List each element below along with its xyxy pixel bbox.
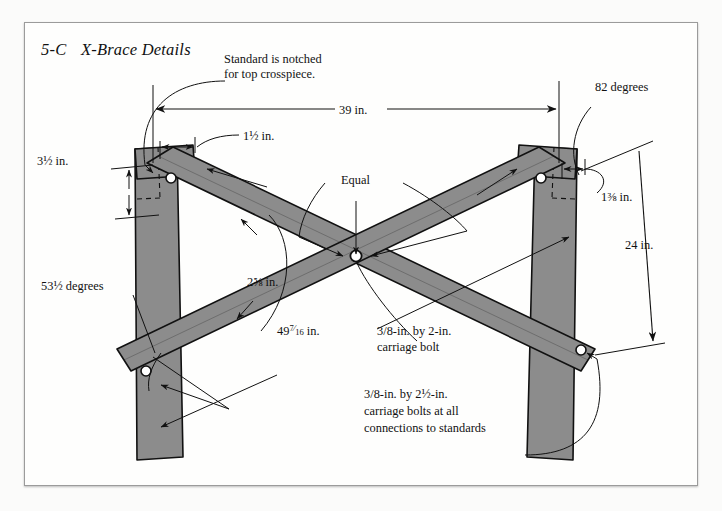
center-bolt-note-line1: 3/8-in. by 2-in. <box>377 324 451 338</box>
bolt-hole-top-right <box>536 173 546 183</box>
figure-frame: 5-C X-Brace Details Standard is notched … <box>24 22 698 486</box>
center-bolt-note-line2: carriage bolt <box>377 340 440 354</box>
dim-span-label: 39 in. <box>339 103 367 117</box>
dim-notch-width-label: 1½ in. <box>243 129 274 143</box>
dim-brace-width-up <box>241 219 257 235</box>
angle-left-whole: 53 <box>41 279 53 293</box>
dim-brace-offset-label: 1⅜ in. <box>601 190 632 204</box>
standards-bolt-note-line2: carriage bolts at all <box>364 404 459 418</box>
bolt-hole-top-left <box>166 173 176 183</box>
notch-note-line2: for top crosspiece. <box>224 67 315 81</box>
leader-notch-width <box>197 135 239 147</box>
x-brace-drawing: 5-C X-Brace Details Standard is notched … <box>25 23 697 485</box>
angle-left-frac: ½ <box>53 279 62 293</box>
ext-24-bot <box>595 343 665 355</box>
brace-length-whole: 49 <box>277 324 289 338</box>
brace-assembly <box>117 145 595 460</box>
equal-label: Equal <box>341 173 370 187</box>
figure-page: 5-C X-Brace Details Standard is notched … <box>0 0 722 511</box>
dim-brace-length-label: 497⁄16 in. <box>277 323 320 338</box>
dim-brace-width-label: 2⅝ in. <box>247 275 278 289</box>
standards-bolt-note-line3: connections to standards <box>364 421 486 435</box>
angle-left-label: 53½ degrees <box>41 279 104 293</box>
brace-inner-line-a <box>158 156 588 360</box>
angle-right-label: 82 degrees <box>595 80 649 94</box>
brace-length-suffix: in. <box>304 324 320 338</box>
figure-number: 5-C <box>41 40 67 59</box>
bolt-hole-bottom-left <box>141 366 151 376</box>
angle-left-suffix: degrees <box>63 279 104 293</box>
figure-title: X-Brace Details <box>80 40 191 59</box>
dim-leg-length-label: 24 in. <box>625 238 653 252</box>
bolt-hole-bottom-right <box>576 345 586 355</box>
ext-24-top <box>581 141 653 171</box>
notch-note-line1: Standard is notched <box>224 52 323 66</box>
standards-bolt-note-line1: 3/8-in. by 2½-in. <box>364 387 448 401</box>
dim-standard-width-label: 3½ in. <box>37 154 68 168</box>
